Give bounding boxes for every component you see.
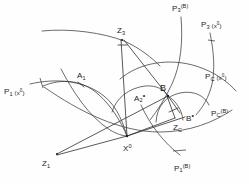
label-pc-x0-arg-close: ) — [224, 74, 226, 81]
label-p1-x0-arg: (x0) — [13, 89, 25, 96]
label-a2: A2• — [134, 92, 145, 104]
label-b-star: B• — [186, 112, 194, 123]
label-pc-x0-sub: C — [210, 76, 214, 82]
label-b: B — [160, 84, 166, 93]
label-p3-b-sup: (B) — [181, 3, 189, 9]
label-z1: Z1 — [42, 160, 50, 169]
label-p1-b: P1(B) — [174, 164, 190, 174]
label-p3-x0-arg-close: ) — [220, 22, 222, 29]
label-p3-x0-arg: (x0) — [210, 22, 222, 29]
label-p1-x0: P1 (x0) — [4, 88, 25, 97]
curve-left-secondary — [43, 81, 127, 136]
point-x0 — [126, 135, 129, 138]
label-p3-b: P3(B) — [172, 4, 188, 14]
label-z3: Z3 — [117, 27, 125, 36]
angle-mark-bstar — [169, 108, 178, 112]
tick-p1-x0 — [40, 78, 43, 88]
label-z1-sub: 1 — [47, 163, 50, 169]
label-pc-x0: PC (x0) — [205, 73, 227, 82]
label-a1-sub: 1 — [82, 75, 85, 81]
ray-zc-to-b — [167, 96, 175, 118]
point-z1 — [56, 153, 58, 155]
label-p3-x0: P3 (x0) — [201, 21, 222, 30]
tick-group — [40, 40, 215, 151]
label-pc-b-sup: (B) — [221, 108, 229, 114]
label-zc-sub: C — [178, 127, 182, 133]
ray-zc-to-x0 — [127, 118, 175, 136]
label-b-star-dot: • — [191, 112, 194, 119]
label-a2-dot: • — [143, 92, 146, 99]
curve-upper-arc — [42, 30, 160, 66]
figure-canvas: P1 (x0) P3(B) P3 (x0) PC (x0) PC(B) P1(B… — [0, 0, 249, 184]
label-p1-x0-arg-close: ) — [23, 89, 25, 96]
label-pc-b: PC(B) — [211, 109, 228, 119]
label-a1: A1 — [77, 72, 86, 81]
label-p1-b-sup: (B) — [183, 163, 191, 169]
point-group — [56, 39, 169, 155]
label-x0: X0 — [123, 144, 132, 153]
point-z3 — [121, 39, 123, 41]
label-zc: ZC — [173, 124, 182, 133]
ray-z3-to-b — [124, 40, 180, 113]
label-x0-sup: 0 — [128, 143, 131, 149]
point-b — [167, 95, 169, 97]
label-z3-sub: 3 — [122, 30, 125, 36]
label-b-base: B — [160, 83, 166, 93]
curve-left-lower — [61, 69, 127, 136]
tick-p3-x0 — [208, 40, 215, 41]
label-pc-x0-arg: (x0) — [215, 74, 227, 81]
tick-p1-b — [173, 150, 186, 151]
